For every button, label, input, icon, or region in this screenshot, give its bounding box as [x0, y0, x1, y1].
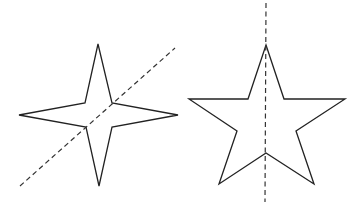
four-point-star [19, 44, 178, 186]
four-point-star-symmetry-line [20, 48, 175, 186]
five-point-star-symmetry-line [265, 3, 266, 202]
five-point-star [189, 45, 345, 184]
symmetry-diagram [0, 0, 356, 211]
